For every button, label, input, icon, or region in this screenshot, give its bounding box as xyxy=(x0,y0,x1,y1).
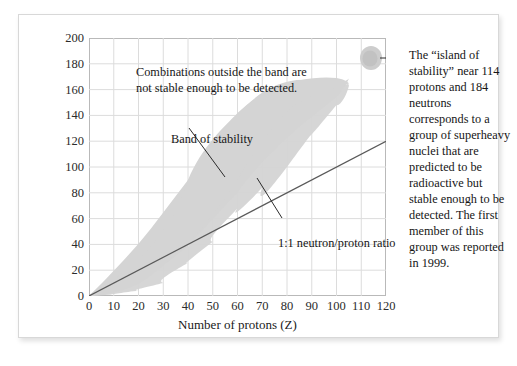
x-tick-60: 60 xyxy=(231,300,244,313)
x-tick-0: 0 xyxy=(86,300,92,313)
x-tick-30: 30 xyxy=(157,300,170,313)
y-tick-200: 200 xyxy=(65,32,84,45)
x-axis-title: Number of protons (Z) xyxy=(89,317,386,333)
x-tick-10: 10 xyxy=(107,300,120,313)
figure-card: Number of neutrons xyxy=(18,14,499,338)
y-tick-20: 20 xyxy=(72,264,85,277)
x-axis-title-text: Number of protons (Z) xyxy=(178,317,297,332)
y-tick-80: 80 xyxy=(72,187,85,200)
x-tick-110: 110 xyxy=(352,300,370,313)
x-tick-50: 50 xyxy=(206,300,219,313)
x-tick-80: 80 xyxy=(281,300,294,313)
x-tick-100: 100 xyxy=(327,300,346,313)
y-tick-100: 100 xyxy=(65,161,84,174)
y-tick-60: 60 xyxy=(72,212,85,225)
y-tick-160: 160 xyxy=(65,83,84,96)
y-tick-40: 40 xyxy=(72,238,85,251)
band-of-stability-label: Band of stability xyxy=(171,132,253,148)
x-tick-120: 120 xyxy=(377,300,396,313)
x-tick-40: 40 xyxy=(182,300,195,313)
y-tick-120: 120 xyxy=(65,135,84,148)
island-of-stability-caption: The “island of stability” near 114 proto… xyxy=(409,48,513,272)
x-tick-90: 90 xyxy=(306,300,319,313)
y-tick-180: 180 xyxy=(65,58,84,71)
x-tick-20: 20 xyxy=(132,300,145,313)
y-tick-140: 140 xyxy=(65,109,84,122)
x-tick-70: 70 xyxy=(256,300,269,313)
island-of-stability-blob xyxy=(360,46,382,70)
combinations-note: Combinations outside the band are not st… xyxy=(136,65,321,96)
y-tick-0: 0 xyxy=(78,290,84,303)
ratio-label: 1:1 neutron/proton ratio xyxy=(278,236,395,252)
